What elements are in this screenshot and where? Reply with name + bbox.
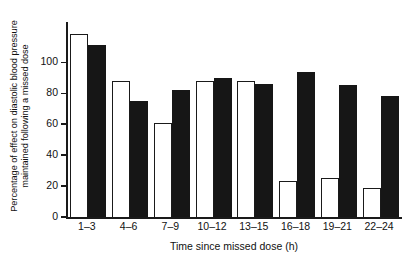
x-axis-title: Time since missed dose (h) <box>66 240 402 253</box>
y-tick-mark: 80 <box>61 93 66 94</box>
y-tick-mark: 0 <box>61 216 66 217</box>
x-tick-label-1–3: 1–3 <box>66 220 108 233</box>
y-tick-label: 60 <box>46 117 58 129</box>
bar-open-22–24 <box>363 188 381 217</box>
x-tick-label-16–18: 16–18 <box>275 220 317 233</box>
x-tick-label-19–21: 19–21 <box>317 220 359 233</box>
bar-filled-13–15 <box>255 84 273 217</box>
bar-group <box>237 22 273 217</box>
bar-group <box>321 22 357 217</box>
bar-group <box>279 22 315 217</box>
y-tick-label: 20 <box>46 179 58 191</box>
x-tick-label-10–12: 10–12 <box>191 220 233 233</box>
bar-filled-19–21 <box>339 85 357 217</box>
bar-group <box>196 22 232 217</box>
x-axis-tick-labels: 1–34–67–910–1213–1516–1819–2122–24 <box>66 220 402 236</box>
x-tick-label-7–9: 7–9 <box>150 220 192 233</box>
x-tick-label-4–6: 4–6 <box>108 220 150 233</box>
y-axis-title-line-1: Percentage of effect on diastolic blood … <box>9 20 21 212</box>
y-tick-mark: 40 <box>61 154 66 155</box>
y-tick-label: 80 <box>46 86 58 98</box>
bar-series-container <box>68 22 402 217</box>
bar-open-19–21 <box>321 178 339 217</box>
plot-area: 020406080100 <box>66 22 402 217</box>
bar-filled-10–12 <box>214 78 232 217</box>
bar-filled-16–18 <box>297 72 315 217</box>
y-axis-title: Percentage of effect on diastolic blood … <box>0 0 40 232</box>
bar-filled-4–6 <box>130 101 148 217</box>
bar-group <box>112 22 148 217</box>
y-axis-title-line-2: maintained following a missed dose <box>20 44 32 187</box>
x-axis-spine <box>66 217 402 219</box>
bar-open-1–3 <box>70 34 88 217</box>
bar-open-7–9 <box>154 123 172 217</box>
x-tick-label-13–15: 13–15 <box>233 220 275 233</box>
bar-open-10–12 <box>196 81 214 217</box>
bar-chart-figure: Percentage of effect on diastolic blood … <box>0 0 410 262</box>
bar-filled-7–9 <box>172 90 190 217</box>
y-tick-label: 40 <box>46 148 58 160</box>
y-tick-label: 100 <box>40 55 58 67</box>
bar-open-4–6 <box>112 81 130 217</box>
x-tick-label-22–24: 22–24 <box>358 220 400 233</box>
y-tick-label: 0 <box>52 210 58 222</box>
bar-open-16–18 <box>279 181 297 217</box>
y-tick-mark: 20 <box>61 185 66 186</box>
bar-filled-1–3 <box>88 45 106 217</box>
y-tick-mark: 60 <box>61 123 66 124</box>
bar-group <box>70 22 106 217</box>
bar-open-13–15 <box>237 81 255 217</box>
bar-filled-22–24 <box>381 96 399 217</box>
y-axis-title-wrapper: Percentage of effect on diastolic blood … <box>0 0 40 232</box>
bar-group <box>154 22 190 217</box>
bar-group <box>363 22 399 217</box>
y-tick-mark: 100 <box>61 62 66 63</box>
